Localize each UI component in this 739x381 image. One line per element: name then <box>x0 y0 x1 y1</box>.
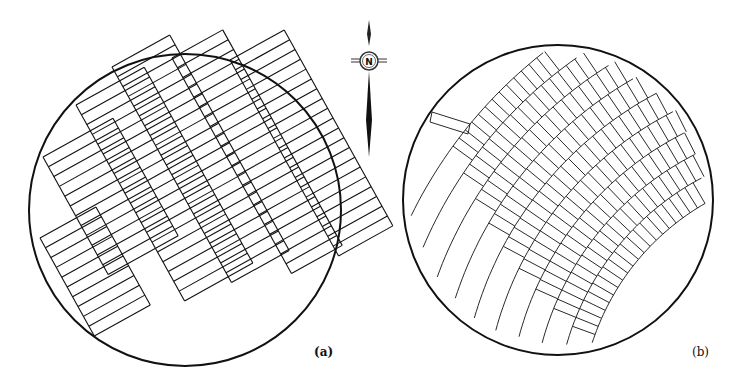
north-arrow-icon: N <box>351 20 387 157</box>
panel-a-label: (a) <box>314 345 333 359</box>
panel-a-grid <box>40 30 393 336</box>
panel-b-grid <box>411 52 705 345</box>
diagram-canvas: N <box>0 0 739 381</box>
compass-letter: N <box>365 57 373 67</box>
figure: N (a) (b) <box>0 0 739 381</box>
panel-b-label: (b) <box>692 345 709 359</box>
